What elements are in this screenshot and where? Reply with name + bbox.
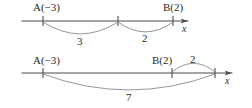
point-label-b-bottom: B(2) [152, 55, 172, 66]
arc-label-7-bottom: 7 [126, 92, 132, 103]
axis-label-bottom: x [225, 76, 229, 86]
arc-label-2-top: 2 [142, 33, 148, 44]
number-line-figure: A(−3) B(2) x 3 2 A(−3) B(2) [0, 0, 252, 108]
arc-a-to-origin-top [43, 22, 118, 34]
point-label-b-top: B(2) [163, 2, 183, 13]
arc-label-2-bottom: 2 [190, 54, 196, 65]
point-label-a-bottom: A(−3) [33, 55, 60, 66]
axis-label-top: x [182, 24, 186, 34]
diagram-bottom: A(−3) B(2) x 2 7 [0, 54, 252, 108]
arc-a-to-end-bottom [43, 74, 215, 90]
diagram-top: A(−3) B(2) x 3 2 [0, 0, 252, 54]
arc-label-3-top: 3 [77, 36, 83, 47]
arc-origin-to-b-top [118, 22, 173, 32]
point-label-a-top: A(−3) [33, 2, 60, 13]
